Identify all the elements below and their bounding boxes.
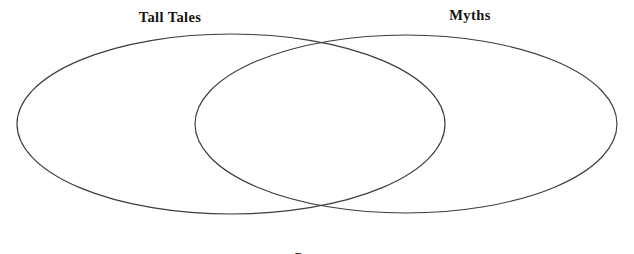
label-common-features-line1: Common	[182, 249, 462, 254]
label-myths: Myths	[330, 7, 610, 24]
label-common-features: Common Features	[182, 211, 462, 254]
label-tall-tales: Tall Tales	[0, 9, 340, 26]
ellipse-tall-tales	[17, 34, 445, 214]
ellipse-myths	[195, 35, 617, 213]
venn-diagram-canvas: Tall Tales Myths Common Features	[0, 0, 634, 254]
